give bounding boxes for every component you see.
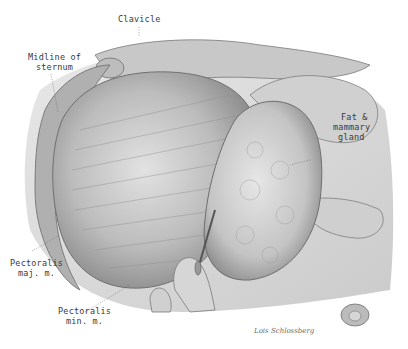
clavicle-text: Clavicle (118, 14, 161, 24)
pect-maj-text-1: Pectoralis (10, 258, 63, 268)
fat-text-1: Fat & (333, 112, 370, 122)
label-fat-mammary-gland: Fat & mammary gland (333, 112, 370, 142)
pect-min-text-1: Pectoralis (58, 306, 111, 316)
fat-text-3: gland (333, 132, 370, 142)
midline-text-2: sternum (28, 62, 81, 72)
label-pectoralis-major: Pectoralis maj. m. (10, 258, 63, 278)
label-clavicle: Clavicle (118, 14, 161, 24)
label-midline-of-sternum: Midline of sternum (28, 52, 81, 72)
midline-text-1: Midline of (28, 52, 81, 62)
label-pectoralis-minor: Pectoralis min. m. (58, 306, 111, 326)
pect-min-text-2: min. m. (58, 316, 111, 326)
areola (341, 304, 369, 326)
artist-signature: Lois Schlossberg (254, 327, 314, 335)
fat-text-2: mammary (333, 122, 370, 132)
pect-maj-text-2: maj. m. (10, 268, 63, 278)
